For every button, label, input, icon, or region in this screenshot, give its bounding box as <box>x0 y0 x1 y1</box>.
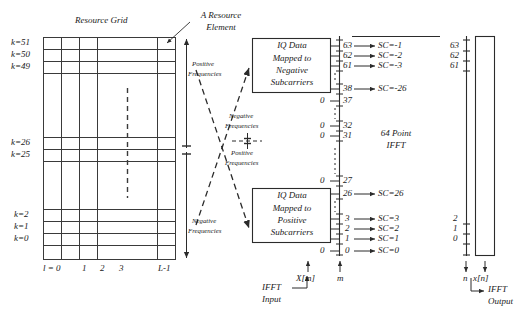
input-index-37: 37 <box>343 96 352 105</box>
axis-positive-line2: Frequencies <box>188 71 221 78</box>
sc-label-2: SC=2 <box>378 224 399 233</box>
input-index-38: 38 <box>343 84 352 93</box>
sc-label-62: SC=-2 <box>378 51 402 60</box>
zero-label-27: 0 <box>320 176 325 185</box>
resource-element-annotation-line2: Element <box>186 23 256 32</box>
input-signal-label: X[m] <box>296 274 315 283</box>
ifft-input-caption-line1: IFFT <box>262 283 281 292</box>
zero-label-32: 0 <box>320 121 325 130</box>
ifft-input-caption-line2: Input <box>262 295 281 304</box>
positive-box-connectors <box>331 194 340 239</box>
grid-col-label-3: 3 <box>119 264 124 273</box>
output-index-1: 1 <box>453 224 458 233</box>
grid-row-label-k0: k=0 <box>14 234 29 243</box>
resource-element-annotation-line1: A Resource <box>186 11 256 20</box>
ifft-output-caption-line2: Output <box>488 297 513 306</box>
sc-label-61: SC=-3 <box>378 61 402 70</box>
grid-col-label-2: 2 <box>100 264 105 273</box>
zero-label-0: 0 <box>320 246 325 255</box>
grid-col-label-l0: l = 0 <box>43 264 61 273</box>
grid-row-label-k51: k=51 <box>11 38 30 47</box>
grid-row-label-k49: k=49 <box>11 62 30 71</box>
positive-box-line1: IQ Data <box>253 191 331 200</box>
grid-row-label-k50: k=50 <box>11 50 30 59</box>
output-index-62: 62 <box>450 51 459 60</box>
sc-label-26: SC=26 <box>378 189 404 198</box>
zero-label-37: 0 <box>320 96 325 105</box>
input-index-61: 61 <box>343 61 352 70</box>
divider-positive-line2: Frequencies <box>225 160 258 167</box>
positive-box-line2: Mapped to <box>253 204 331 213</box>
sc-label-0: SC=0 <box>378 246 399 255</box>
grid-row-label-k26: k=26 <box>11 138 30 147</box>
input-index-63: 63 <box>343 41 352 50</box>
input-index-3: 3 <box>345 214 350 223</box>
negative-box-line1: IQ Data <box>253 41 331 50</box>
ifft-output-caption-line1: IFFT <box>488 285 507 294</box>
figure-root: Resource Grid A Resource Element k=51 k=… <box>0 0 519 309</box>
sc-label-3: SC=3 <box>378 214 399 223</box>
input-index-label: m <box>337 274 344 283</box>
input-index-27: 27 <box>343 176 352 185</box>
grid-row-label-k1: k=1 <box>14 222 29 231</box>
output-signal-bar <box>476 37 495 256</box>
divider-negative-line2: Frequencies <box>225 123 258 130</box>
negative-box-line2: Mapped to <box>253 54 331 63</box>
input-index-32: 32 <box>343 121 352 130</box>
input-index-31: 31 <box>343 131 352 140</box>
axis-positive-line1: Positive <box>192 61 214 68</box>
grid-col-label-1: 1 <box>82 264 87 273</box>
axis-negative-line1: Negative <box>192 218 216 225</box>
grid-col-label-Lm1: L-1 <box>158 264 171 273</box>
output-index-label: n <box>463 274 468 283</box>
bottom-pointers <box>292 261 485 291</box>
output-index-0: 0 <box>453 234 458 243</box>
output-signal-label: x[n] <box>473 274 489 283</box>
input-index-2: 2 <box>345 224 350 233</box>
resource-grid-title: Resource Grid <box>75 16 127 25</box>
positive-box-line3: Positive <box>253 216 331 225</box>
output-index-column <box>463 36 470 256</box>
ifft-block-line2: IFFT <box>360 141 432 150</box>
positive-box-line4: Subcarriers <box>253 228 331 237</box>
grid-row-label-k2: k=2 <box>14 210 29 219</box>
mapping-arrows <box>196 68 249 228</box>
divider-positive-line1: Positive <box>231 150 253 157</box>
resource-grid-lines <box>44 38 176 260</box>
input-index-0: 0 <box>345 246 350 255</box>
grid-row-label-k25: k=25 <box>11 150 30 159</box>
sc-label-38: SC=-26 <box>378 84 407 93</box>
negative-box-line4: Subcarriers <box>253 78 331 87</box>
frequency-divider <box>232 133 262 149</box>
axis-negative-line2: Frequencies <box>188 228 221 235</box>
negative-box-connectors <box>331 46 340 89</box>
output-index-63: 63 <box>450 41 459 50</box>
input-index-62: 62 <box>343 51 352 60</box>
zero-label-31: 0 <box>320 131 325 140</box>
sc-label-1: SC=1 <box>378 234 399 243</box>
divider-negative-line1: Negative <box>229 113 253 120</box>
negative-box-line3: Negative <box>253 66 331 75</box>
input-index-1: 1 <box>345 234 350 243</box>
input-index-26: 26 <box>343 189 352 198</box>
output-index-2: 2 <box>453 214 458 223</box>
sc-label-63: SC=-1 <box>378 41 402 50</box>
output-index-61: 61 <box>450 61 459 70</box>
ifft-block-line1: 64 Point <box>360 129 432 138</box>
